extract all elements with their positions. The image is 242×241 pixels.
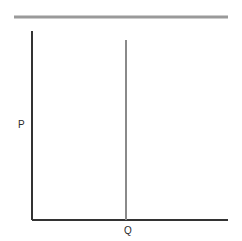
chart-canvas [0,0,242,241]
supply-demand-figure: P Q [0,0,242,241]
y-axis-label: P [18,120,25,130]
x-axis-label: Q [124,226,132,236]
